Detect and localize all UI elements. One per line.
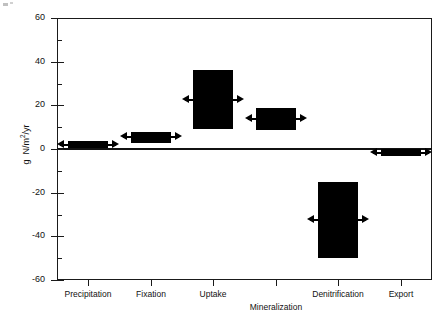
x-axis-tick [276, 279, 277, 286]
y-axis-tick [51, 105, 58, 106]
arrow-shaft [373, 152, 429, 154]
arrow-head-right [112, 140, 119, 148]
y-axis-minor-tick [58, 171, 62, 172]
arrow-head-left [307, 215, 314, 223]
arrow-head-left [182, 95, 189, 103]
x-axis-tick [401, 279, 402, 286]
y-axis-tick-label: -40 [19, 231, 45, 240]
range-arrow-denitrification [307, 215, 369, 224]
range-arrow-mineralization [245, 114, 307, 123]
scan-speck [10, 2, 13, 4]
x-axis-label-mineralization: Mineralization [231, 302, 321, 312]
arrow-head-left [370, 148, 377, 156]
arrow-shaft [123, 136, 179, 138]
x-axis-label-uptake: Uptake [168, 289, 258, 299]
arrow-shaft [60, 144, 116, 146]
arrow-shaft [248, 118, 304, 120]
arrow-head-right [362, 215, 369, 223]
arrow-head-left [245, 114, 252, 122]
y-axis-tick [51, 193, 58, 194]
y-axis-inner-tick [58, 236, 64, 237]
y-axis-inner-tick [58, 62, 64, 63]
arrow-head-left [57, 140, 64, 148]
y-axis-inner-tick [58, 105, 64, 106]
y-axis-tick-label: -60 [19, 275, 45, 284]
x-axis-tick [88, 279, 89, 286]
y-axis-inner-tick [58, 149, 64, 150]
x-axis-label-export: Export [356, 289, 436, 299]
y-axis-inner-tick [58, 280, 64, 281]
y-axis-minor-tick [58, 127, 62, 128]
arrow-head-left [120, 132, 127, 140]
y-axis-tick-label: 0 [19, 144, 45, 153]
nitrogen-budget-chart: g N/m2/yr 6040200-20-40-60PrecipitationF… [0, 0, 436, 333]
range-arrow-uptake [182, 95, 244, 104]
y-axis-minor-tick [58, 215, 62, 216]
arrow-shaft [185, 99, 241, 101]
x-axis-tick [213, 279, 214, 286]
scan-speck [3, 3, 8, 6]
y-axis-minor-tick [58, 258, 62, 259]
y-axis-tick [51, 236, 58, 237]
y-axis-tick [51, 62, 58, 63]
arrow-head-right [300, 114, 307, 122]
y-axis-tick [51, 149, 58, 150]
arrow-shaft [310, 219, 366, 221]
y-axis-tick-label: 60 [19, 13, 45, 22]
y-axis-tick-label: -20 [19, 188, 45, 197]
y-axis-tick [51, 280, 58, 281]
y-axis-tick [51, 18, 58, 19]
x-axis-tick [338, 279, 339, 286]
y-axis-minor-tick [58, 84, 62, 85]
y-axis-inner-tick [58, 18, 64, 19]
arrow-head-right [237, 95, 244, 103]
y-axis-minor-tick [58, 40, 62, 41]
y-axis-inner-tick [58, 193, 64, 194]
arrow-head-right [175, 132, 182, 140]
arrow-head-right [425, 148, 432, 156]
y-axis-tick-label: 40 [19, 57, 45, 66]
range-arrow-fixation [120, 132, 182, 141]
y-axis-tick-label: 20 [19, 100, 45, 109]
x-axis-tick [151, 279, 152, 286]
range-arrow-export [370, 148, 432, 157]
range-arrow-precipitation [57, 140, 119, 149]
